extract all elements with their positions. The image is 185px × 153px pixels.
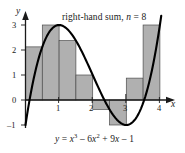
curve-equation-label: y = x3 – 6x2 + 9x – 1: [55, 132, 134, 144]
y-tick-label-1: 1: [12, 70, 16, 80]
bar-2: [59, 41, 76, 100]
chart-title-value: 8: [141, 12, 146, 22]
y-tick-label-0: 0: [12, 95, 16, 105]
chart-title: right-hand sum, n = 8: [62, 12, 146, 22]
equation-term4: – 1: [119, 134, 134, 144]
y-tick-label-2: 2: [12, 45, 16, 55]
y-axis-label: y: [16, 6, 20, 16]
chart-title-prefix: right-hand sum,: [62, 12, 126, 22]
chart-canvas: [0, 0, 185, 153]
bar-1: [42, 25, 59, 100]
x-tick-label-2: 2: [89, 103, 93, 113]
bar-6: [126, 78, 143, 100]
x-tick-label-3: 3: [123, 103, 127, 113]
bar-3: [76, 75, 93, 100]
y-tick-label-neg1: –1: [7, 120, 16, 130]
y-axis-arrow: [22, 11, 29, 20]
equation-equals: =: [59, 134, 69, 144]
y-tick-label-3: 3: [12, 20, 16, 30]
equation-term2-op: – 6: [77, 134, 92, 144]
chart-title-equals: =: [131, 12, 141, 22]
x-tick-label-1: 1: [56, 103, 60, 113]
equation-term3-op: + 9: [100, 134, 115, 144]
riemann-sum-figure: right-hand sum, n = 8 y = x3 – 6x2 + 9x …: [0, 0, 185, 153]
x-axis-label: x: [171, 99, 175, 109]
x-tick-label-4: 4: [157, 103, 161, 113]
